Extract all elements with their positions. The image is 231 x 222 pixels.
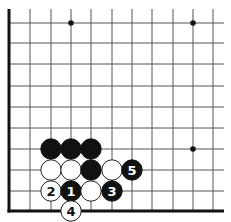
white-stone (61, 160, 81, 180)
black-stone (81, 139, 101, 159)
black-stone (61, 139, 81, 159)
white-stone (41, 160, 61, 180)
white-stone-icon (61, 160, 81, 180)
black-stone (41, 139, 61, 159)
black-stone (81, 160, 101, 180)
black-stone-move-5: 5 (122, 160, 142, 180)
white-stone-icon (102, 160, 122, 180)
black-stone-icon (81, 139, 101, 159)
move-number: 3 (107, 184, 116, 199)
go-board: 52134 (0, 0, 231, 222)
star-point-icon (190, 20, 196, 26)
white-stone-icon (41, 160, 61, 180)
move-number: 1 (66, 184, 75, 199)
star-point-icon (190, 146, 196, 152)
move-number: 2 (46, 184, 55, 199)
white-stone (81, 181, 101, 201)
black-stone-move-1: 1 (61, 181, 81, 201)
black-stone-icon (81, 160, 101, 180)
white-stone-move-2: 2 (41, 181, 61, 201)
white-stone (102, 160, 122, 180)
white-stone-icon (81, 181, 101, 201)
star-point-icon (68, 20, 74, 26)
black-stone-move-3: 3 (102, 181, 122, 201)
move-number: 4 (66, 204, 75, 219)
white-stone-move-4: 4 (61, 201, 81, 221)
black-stone-icon (41, 139, 61, 159)
move-number: 5 (127, 163, 136, 178)
black-stone-icon (61, 139, 81, 159)
